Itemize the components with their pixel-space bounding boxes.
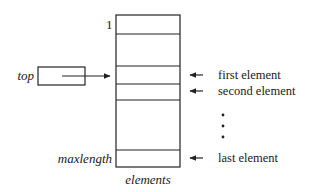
first-element-label: first element [218,68,281,82]
second-element-label: second element [218,84,296,98]
stack-array-diagram: 1 maxlength elements top first element s… [0,0,318,192]
array-name-label: elements [125,172,170,187]
index-last-label: maxlength [58,151,112,166]
annotation-first: first element [190,68,281,82]
array-outline [116,15,180,167]
pointer-name-label: top [17,68,34,83]
last-element-label: last element [218,151,279,165]
vertical-ellipsis-icon [222,114,225,139]
annotation-second: second element [190,84,296,98]
index-first-label: 1 [106,17,113,32]
annotation-last: last element [190,151,279,165]
top-pointer: top [17,67,110,85]
elements-array [116,15,180,167]
